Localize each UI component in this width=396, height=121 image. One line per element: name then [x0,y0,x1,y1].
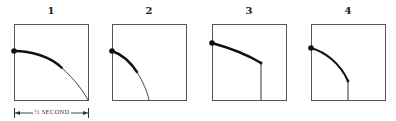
panel-3 [209,25,286,101]
panel-2-frame [113,25,187,101]
panel-1-trajectory-thin [62,68,88,100]
panel-2 [109,25,186,101]
panel-2-ball-icon [109,48,115,54]
panel-3-turn-point-icon [260,62,263,65]
panel-4 [308,25,385,101]
panel-3-frame [213,25,287,101]
panel-4-turn-point-icon [347,80,350,83]
panel-1 [11,25,88,101]
half-second-text: ½ SECOND [33,108,72,115]
trajectory-diagram [0,0,396,121]
panel-1-trajectory-thick [14,51,62,68]
dimension-label: ½ SECOND [14,108,90,115]
panel-1-frame [15,25,89,101]
panel-3-trajectory-line [212,43,261,63]
panel-4-ball-icon [308,45,314,51]
panel-3-ball-icon [209,40,215,46]
panel-2-trajectory-thin [137,72,149,100]
panel-2-trajectory-thick [112,51,137,72]
panel-1-ball-icon [11,48,17,54]
panel-4-trajectory-curve [311,48,348,81]
